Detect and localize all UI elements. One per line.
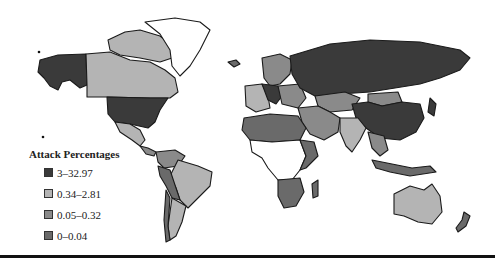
legend-title: Attack Percentages [29,148,148,160]
region-indonesia [372,160,436,176]
region-japan [428,98,436,116]
legend-swatch [44,210,53,219]
map-legend: Attack Percentages 3–32.97 0.34–2.81 0.0… [28,148,148,250]
region-scandinavia [262,54,292,86]
legend-swatch [44,189,53,198]
legend-item-low: 0–0.04 [44,229,148,242]
world-map-figure: Attack Percentages 3–32.97 0.34–2.81 0.0… [0,0,495,258]
region-madagascar [312,180,318,198]
legend-swatch [44,168,53,177]
region-argentina [168,198,186,240]
legend-label: 0.34–2.81 [57,188,101,200]
island-marker [38,51,41,54]
region-chile [164,190,170,242]
region-central-africa [250,140,306,180]
legend-item-high: 3–32.97 [44,166,148,179]
island-marker [42,136,45,139]
region-iceland [228,60,240,67]
region-alaska [38,54,87,90]
legend-label: 3–32.97 [57,167,93,179]
legend-label: 0.05–0.32 [57,209,101,221]
region-southern-africa [278,178,304,208]
legend-label: 0–0.04 [57,230,87,242]
legend-item-medium-high: 0.34–2.81 [44,187,148,200]
region-russia [290,40,470,96]
region-north-africa [242,114,306,142]
legend-item-medium-low: 0.05–0.32 [44,208,148,221]
legend-swatch [44,231,53,240]
region-australia [394,184,442,224]
region-india [340,118,366,152]
region-new-zealand [456,212,470,232]
